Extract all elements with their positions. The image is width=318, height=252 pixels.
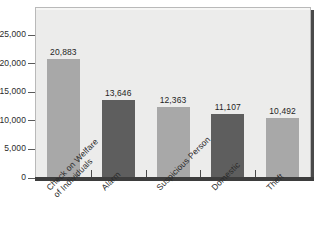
y-axis-tick-label: 5,000 [0, 143, 26, 153]
y-axis-tick [28, 178, 35, 179]
bar[interactable] [266, 118, 299, 178]
bar-chart: 05,00010,00015,00020,00025,000 20,88313,… [0, 0, 318, 252]
y-axis-tick [28, 63, 35, 64]
y-axis-tick-label: 10,000 [0, 115, 26, 125]
y-axis-tick-label: 25,000 [0, 29, 26, 39]
bar[interactable] [102, 100, 135, 178]
bar-value-label: 11,107 [202, 102, 254, 112]
bar-value-label: 10,492 [257, 106, 309, 116]
y-axis-tick [28, 120, 35, 121]
plot-area-highlight [36, 8, 310, 10]
y-axis-tick-label: 0 [0, 172, 26, 182]
bar-value-label: 20,883 [37, 47, 89, 57]
bar-value-label: 13,646 [92, 88, 144, 98]
y-axis-tick-label: 20,000 [0, 58, 26, 68]
bar-value-label: 12,363 [147, 95, 199, 105]
y-axis-tick [28, 149, 35, 150]
y-axis-tick [28, 35, 35, 36]
y-axis-tick [28, 92, 35, 93]
y-axis-tick-label: 15,000 [0, 86, 26, 96]
